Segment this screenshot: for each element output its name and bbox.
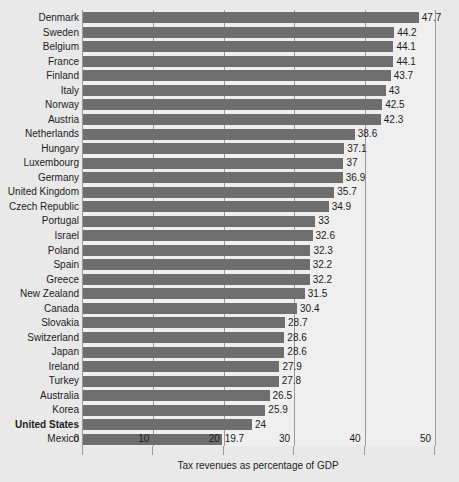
bar-row: 44.2: [83, 25, 459, 41]
bar-value-label: 43: [386, 83, 400, 99]
bar-row: 32.3: [83, 243, 459, 259]
y-axis-label: Ireland: [0, 359, 79, 375]
bar-value-label: 36.9: [343, 170, 365, 186]
y-axis-label: Netherlands: [0, 126, 79, 142]
y-axis-label: Denmark: [0, 10, 79, 26]
bar-value-label: 28.7: [285, 315, 307, 331]
bar: [83, 259, 310, 270]
bar-value-label: 44.1: [393, 39, 415, 55]
bar-chart: DenmarkSwedenBelgiumFranceFinlandItalyNo…: [0, 0, 459, 482]
bar: [83, 230, 313, 241]
bar-value-label: 47.7: [419, 10, 441, 26]
x-tick: [152, 446, 153, 455]
bar: [83, 201, 329, 212]
y-axis-label: Korea: [0, 402, 79, 418]
bar-row: 32.2: [83, 257, 459, 273]
x-axis: 01020304050: [82, 446, 434, 447]
bar-value-label: 35.7: [334, 184, 356, 200]
bar-value-label: 44.2: [394, 25, 416, 41]
y-axis-label: Finland: [0, 68, 79, 84]
bar-row: 37.1: [83, 141, 459, 157]
bar-row: 28.6: [83, 330, 459, 346]
bar-row: 26.5: [83, 388, 459, 404]
bar-value-label: 32.2: [310, 257, 332, 273]
bar-row: 31.5: [83, 286, 459, 302]
bar-value-label: 31.5: [305, 286, 327, 302]
y-axis-label: Canada: [0, 301, 79, 317]
bar: [83, 12, 419, 23]
x-tick-label: 50: [420, 433, 434, 444]
bar: [83, 347, 284, 358]
x-tick-label: 20: [209, 433, 223, 444]
y-axis-label: Luxembourg: [0, 155, 79, 171]
y-axis-label: Sweden: [0, 25, 79, 41]
bar-row: 44.1: [83, 54, 459, 70]
y-axis-label: Czech Republic: [0, 199, 79, 215]
y-axis-label: Australia: [0, 388, 79, 404]
bar: [83, 56, 393, 67]
bar-row: 30.4: [83, 301, 459, 317]
bar-value-label: 37.1: [344, 141, 366, 157]
bar-row: 33: [83, 213, 459, 229]
bar-value-label: 30.4: [297, 301, 319, 317]
bar-series: 47.744.244.144.143.74342.542.338.637.137…: [83, 10, 435, 446]
y-axis-label: Japan: [0, 344, 79, 360]
bar: [83, 317, 285, 328]
y-axis-label: Norway: [0, 97, 79, 113]
y-axis-label: United Kingdom: [0, 184, 79, 200]
y-axis-label: Turkey: [0, 373, 79, 389]
bar-value-label: 25.9: [265, 402, 287, 418]
bar-value-label: 38.6: [355, 126, 377, 142]
bar-row: 42.5: [83, 97, 459, 113]
x-tick-label: 40: [349, 433, 363, 444]
bar-row: 28.7: [83, 315, 459, 331]
x-tick: [293, 446, 294, 455]
bar-row: 37: [83, 155, 459, 171]
bar-row: 27.8: [83, 373, 459, 389]
y-axis-label: Hungary: [0, 141, 79, 157]
bar: [83, 288, 305, 299]
y-axis-label: Israel: [0, 228, 79, 244]
bar: [83, 187, 334, 198]
bar: [83, 245, 310, 256]
bar: [83, 303, 297, 314]
bar-value-label: 19.7: [222, 431, 244, 447]
bar-row: 32.6: [83, 228, 459, 244]
bar-value-label: 37: [343, 155, 357, 171]
y-axis-label: Mexico: [0, 431, 79, 447]
x-tick-label: 10: [138, 433, 152, 444]
bar: [83, 70, 391, 81]
bar-row: 24: [83, 417, 459, 433]
bar: [83, 390, 270, 401]
bar-row: 36.9: [83, 170, 459, 186]
bar: [83, 114, 381, 125]
y-axis-label: Belgium: [0, 39, 79, 55]
x-tick: [434, 446, 435, 455]
bar-value-label: 32.3: [310, 243, 332, 259]
bar-row: 38.6: [83, 126, 459, 142]
bar-value-label: 28.6: [284, 330, 306, 346]
bar-row: 47.7: [83, 10, 459, 26]
bar-value-label: 32.2: [310, 272, 332, 288]
x-tick-label: 30: [279, 433, 293, 444]
y-axis-label: Portugal: [0, 213, 79, 229]
bar-value-label: 26.5: [270, 388, 292, 404]
x-tick: [82, 446, 83, 455]
bar-row: 43.7: [83, 68, 459, 84]
x-axis-title: Tax revenues as percentage of GDP: [82, 460, 434, 471]
bar: [83, 99, 382, 110]
y-axis-label: France: [0, 54, 79, 70]
bar: [83, 172, 343, 183]
y-axis-label: Austria: [0, 112, 79, 128]
bar: [83, 332, 284, 343]
y-axis-label: Germany: [0, 170, 79, 186]
bar: [83, 405, 265, 416]
bar: [83, 143, 344, 154]
bar-value-label: 43.7: [391, 68, 413, 84]
bar-value-label: 42.5: [382, 97, 404, 113]
bar-value-label: 24: [252, 417, 266, 433]
bar-row: 32.2: [83, 272, 459, 288]
y-axis-label: Slovakia: [0, 315, 79, 331]
bar: [83, 158, 343, 169]
bar: [83, 41, 393, 52]
